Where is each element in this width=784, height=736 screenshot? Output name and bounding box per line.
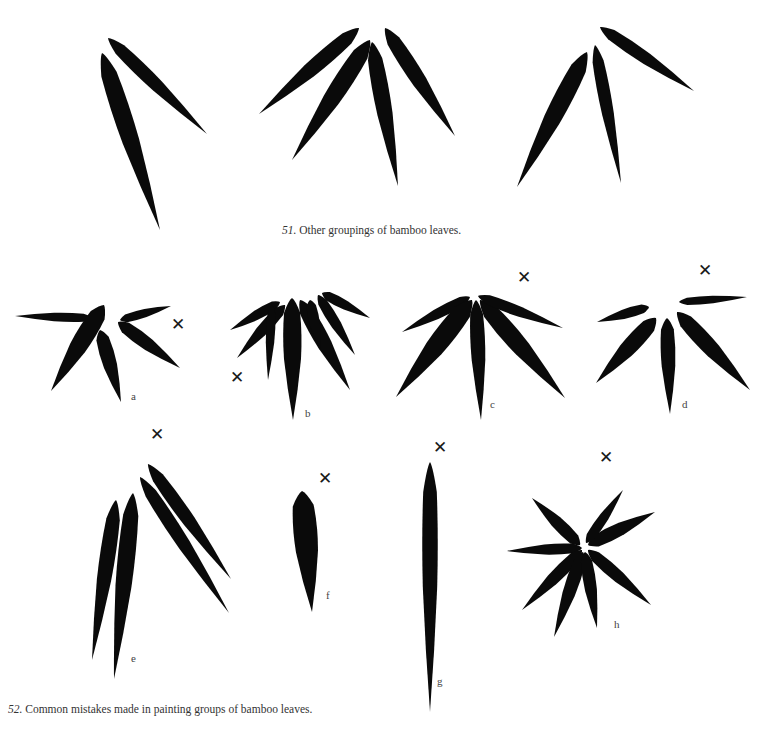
example-label-e: e: [131, 652, 136, 664]
mistake-x-mark-icon: ✕: [698, 262, 712, 279]
bamboo-leaf: [266, 305, 276, 380]
illustration-canvas: [0, 0, 784, 736]
mistake-example-g: [422, 462, 438, 712]
example-label-g: g: [437, 675, 443, 687]
mistake-x-mark-icon: ✕: [171, 316, 185, 333]
example-label-f: f: [326, 589, 330, 601]
mistake-example-e: [92, 464, 231, 679]
mistake-x-mark-icon: ✕: [517, 269, 531, 286]
bamboo-leaf: [507, 543, 582, 554]
mistake-x-mark-icon: ✕: [150, 426, 164, 443]
bamboo-leaf: [593, 45, 621, 183]
bamboo-leaf: [597, 305, 649, 322]
bamboo-leaf: [120, 306, 171, 322]
bamboo-leaf: [677, 312, 750, 390]
mistake-example-b: [230, 292, 370, 420]
mistake-example-d: [596, 296, 750, 414]
mistake-example-a: [15, 305, 180, 402]
figure-51-leaf-groups: [101, 27, 694, 230]
bamboo-leaf: [385, 28, 455, 136]
leaf-group-51-middle: [259, 28, 455, 186]
mistake-x-mark-icon: ✕: [318, 470, 332, 487]
bamboo-leaf: [368, 42, 398, 186]
mistake-x-mark-icon: ✕: [433, 439, 447, 456]
bamboo-leaf: [517, 52, 588, 187]
mistake-x-mark-icon: ✕: [599, 449, 613, 466]
mistake-example-h: [507, 490, 655, 637]
example-label-c: c: [490, 398, 495, 410]
figure-52-caption: 52. Common mistakes made in painting gro…: [8, 703, 312, 715]
example-label-a: a: [131, 390, 136, 402]
bamboo-leaf: [470, 300, 485, 420]
figure-52-caption-text: Common mistakes made in painting groups …: [25, 703, 312, 715]
bamboo-leaf: [140, 477, 229, 613]
figure-51-caption-text: Other groupings of bamboo leaves.: [299, 224, 461, 236]
bamboo-leaf: [422, 462, 438, 712]
figure-51-number: 51.: [282, 224, 296, 236]
bamboo-leaf: [600, 27, 694, 91]
mistake-example-f: [293, 491, 318, 612]
bamboo-leaf: [661, 318, 676, 414]
example-label-h: h: [614, 618, 620, 630]
example-label-d: d: [682, 398, 688, 410]
bamboo-leaf: [679, 296, 747, 305]
bamboo-leaf: [283, 298, 301, 420]
figure-51-caption: 51. Other groupings of bamboo leaves.: [282, 224, 461, 236]
mistake-x-mark-icon: ✕: [230, 369, 244, 386]
figure-52-number: 52.: [8, 703, 22, 715]
leaf-group-51-left: [101, 38, 207, 230]
figure-52-leaf-groups: [15, 292, 750, 712]
bamboo-leaf: [96, 330, 121, 402]
example-label-b: b: [305, 407, 311, 419]
bamboo-leaf: [293, 491, 318, 612]
bamboo-leaf: [588, 550, 651, 605]
bamboo-leaf: [15, 313, 93, 322]
bamboo-leaf: [532, 498, 580, 545]
leaf-group-51-right: [517, 27, 694, 187]
mistake-example-c: [396, 295, 565, 420]
bamboo-leaf: [596, 318, 656, 383]
